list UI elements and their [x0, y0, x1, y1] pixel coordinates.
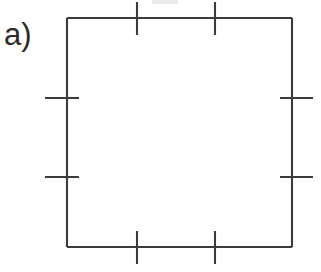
scan-smudge-artifact	[152, 0, 178, 4]
square-outline	[67, 18, 292, 247]
figure-panel: a)	[0, 0, 321, 272]
square-diagram	[0, 0, 321, 272]
tick-marks-right	[280, 98, 313, 177]
tick-marks-left	[45, 98, 79, 177]
